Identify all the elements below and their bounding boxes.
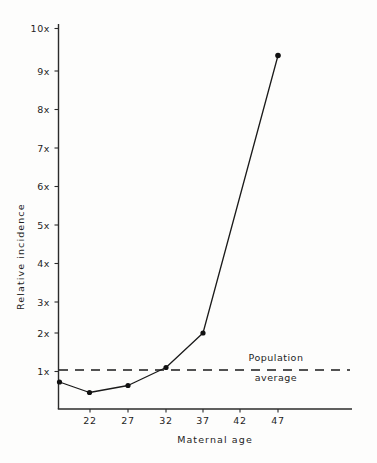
chart-container: 10x 9x 8x 7x 6x 5x 4x 3x 2x 1x 22 27 32 … <box>0 0 377 463</box>
y-tick-label-1x: 1x <box>37 366 50 377</box>
y-tick-label-3x: 3x <box>37 297 50 308</box>
x-tick-label-27: 27 <box>121 415 134 426</box>
y-tick-label-5x: 5x <box>37 220 50 231</box>
data-point-age-27 <box>125 383 130 388</box>
y-axis-title: Relative incidence <box>15 203 26 310</box>
y-tick-label-6x: 6x <box>37 181 50 192</box>
x-axis-title: Maternal age <box>177 434 253 445</box>
x-tick-label-37: 37 <box>196 415 209 426</box>
y-tick-label-4x: 4x <box>37 258 50 269</box>
data-point-age-47 <box>275 53 281 59</box>
y-tick-label-9x: 9x <box>37 66 50 77</box>
y-tick-label-10x: 10x <box>30 23 50 34</box>
x-tick-label-42: 42 <box>233 415 246 426</box>
data-point-age-32 <box>163 365 168 370</box>
x-tick-label-32: 32 <box>159 415 172 426</box>
y-tick-label-2x: 2x <box>37 328 50 339</box>
relative-incidence-line-chart: 10x 9x 8x 7x 6x 5x 4x 3x 2x 1x 22 27 32 … <box>0 0 377 463</box>
y-tick-label-7x: 7x <box>37 143 50 154</box>
data-point-age-22 <box>87 390 92 395</box>
chart-background <box>0 0 377 463</box>
population-average-label-line2: average <box>255 372 297 383</box>
x-tick-label-47: 47 <box>271 415 284 426</box>
population-average-label-line1: Population <box>249 352 304 363</box>
data-point-age-18 <box>57 379 62 384</box>
y-tick-label-8x: 8x <box>37 104 50 115</box>
data-point-age-37 <box>200 330 205 335</box>
x-tick-label-22: 22 <box>83 415 96 426</box>
